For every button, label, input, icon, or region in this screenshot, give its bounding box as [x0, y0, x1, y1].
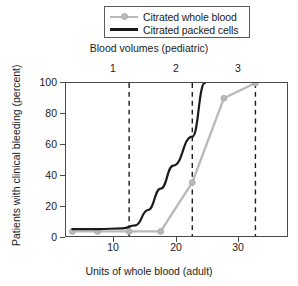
plot-svg	[66, 83, 287, 236]
data-point-0-6	[252, 83, 258, 86]
data-point-0-5	[221, 95, 227, 101]
series-layer	[69, 83, 258, 234]
gray-line-with-dot-icon	[110, 11, 138, 23]
y-tick-label-100: 100	[31, 76, 57, 88]
x-tick-label-10: 10	[101, 241, 125, 253]
data-point-0-4	[189, 179, 195, 185]
y-tick-label-80: 80	[31, 107, 57, 119]
black-line-icon	[110, 24, 138, 36]
legend-label-whole-blood: Citrated whole blood	[138, 11, 237, 23]
top-axis-title: Blood volumes (pediatric)	[0, 42, 298, 54]
vertical-dashed-lines	[129, 83, 255, 236]
x-axis-title: Units of whole blood (adult)	[0, 265, 298, 277]
y-axis-title: Patients with clinical bleeding (percent…	[10, 66, 22, 246]
plot-area	[65, 82, 288, 237]
x-tick-label-20: 20	[164, 241, 188, 253]
data-point-0-2	[126, 228, 132, 234]
y-tick-mark-0	[60, 237, 65, 238]
top-tick-label-3: 3	[228, 62, 248, 74]
top-tick-label-2: 2	[166, 62, 186, 74]
series-line-0	[72, 83, 255, 231]
chart-figure: Citrated whole blood Citrated packed cel…	[0, 0, 298, 286]
top-tick-label-1: 1	[103, 62, 123, 74]
y-tick-label-20: 20	[31, 200, 57, 212]
y-tick-label-0: 0	[31, 231, 57, 243]
y-tick-label-60: 60	[31, 138, 57, 150]
series-line-1	[72, 83, 205, 229]
x-tick-label-30: 30	[226, 241, 250, 253]
chart-legend: Citrated whole blood Citrated packed cel…	[104, 6, 250, 38]
legend-item-citrated-whole-blood: Citrated whole blood	[110, 10, 244, 23]
y-tick-label-40: 40	[31, 169, 57, 181]
legend-label-packed-cells: Citrated packed cells	[138, 24, 238, 36]
data-point-0-3	[158, 228, 164, 234]
legend-item-citrated-packed-cells: Citrated packed cells	[110, 23, 244, 36]
